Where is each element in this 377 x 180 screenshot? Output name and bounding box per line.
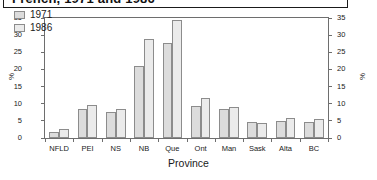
x-axis-title: Province: [0, 157, 377, 169]
y-axis-tick: [328, 120, 332, 121]
x-axis-tick: [102, 138, 103, 142]
legend-item-1986: 1986: [14, 21, 52, 34]
screenshot-root: French, 1971 and 1986 005510101515202025…: [0, 0, 377, 180]
x-axis-label-man: Man: [215, 144, 243, 153]
y-axis-tick-label: 30: [337, 31, 361, 39]
y-axis-tick: [328, 18, 332, 19]
x-axis-tick: [300, 138, 301, 142]
bar-nb-1971: [134, 66, 144, 138]
plot-inner: 0055101015152020252530303535NFLDPEINSNBQ…: [45, 18, 328, 138]
y-axis-tick-label: 15: [0, 83, 22, 91]
bar-que-1971: [163, 43, 173, 138]
y-axis-tick: [41, 69, 45, 70]
y-axis-tick-label: 5: [337, 117, 361, 125]
y-axis-label-right: %: [358, 70, 367, 84]
bar-ns-1986: [116, 109, 126, 138]
legend-item-label: 1986: [30, 23, 52, 33]
legend-item-label: 1971: [30, 10, 52, 20]
bar-alta-1986: [286, 118, 296, 138]
x-axis-tick: [215, 138, 216, 142]
y-axis-tick: [328, 103, 332, 104]
y-axis-tick-label: 10: [0, 100, 22, 108]
y-axis-tick-label: 5: [0, 117, 22, 125]
legend: 19711986: [14, 8, 52, 34]
plot-area: 0055101015152020252530303535NFLDPEINSNBQ…: [44, 17, 329, 139]
x-axis-label-alta: Alta: [271, 144, 299, 153]
bar-bc-1971: [304, 122, 314, 138]
bar-pei-1971: [78, 109, 88, 138]
x-axis-label-sask: Sask: [243, 144, 271, 153]
bar-man-1986: [229, 107, 239, 138]
y-axis-tick: [328, 86, 332, 87]
y-axis-tick-label: 25: [337, 48, 361, 56]
y-axis-tick: [41, 86, 45, 87]
legend-item-1971: 1971: [14, 8, 52, 21]
y-axis-tick-label: 0: [0, 134, 22, 142]
x-axis-tick: [130, 138, 131, 142]
bar-man-1971: [219, 109, 229, 138]
x-axis-label-nb: NB: [130, 144, 158, 153]
y-axis-tick-label: 25: [0, 48, 22, 56]
y-axis-label-left: %: [7, 70, 16, 84]
bar-ont-1986: [201, 98, 211, 138]
legend-swatch-icon: [14, 24, 25, 32]
y-axis-tick: [41, 120, 45, 121]
y-axis-tick-label: 35: [337, 14, 361, 22]
y-axis-tick-label: 0: [337, 134, 361, 142]
x-axis-label-ns: NS: [102, 144, 130, 153]
bar-que-1986: [172, 20, 182, 138]
chart-title-bar: French, 1971 and 1986: [3, 0, 348, 8]
page-title: French, 1971 and 1986: [12, 0, 155, 6]
bar-bc-1986: [314, 119, 324, 138]
x-axis-tick: [271, 138, 272, 142]
y-axis-tick: [41, 103, 45, 104]
x-axis-label-que: Que: [158, 144, 186, 153]
x-axis-label-ont: Ont: [187, 144, 215, 153]
bar-sask-1986: [257, 123, 267, 138]
x-axis-tick: [328, 138, 329, 142]
bar-nfld-1971: [49, 132, 59, 138]
x-axis-tick: [243, 138, 244, 142]
x-axis-tick: [158, 138, 159, 142]
x-axis-tick: [45, 138, 46, 142]
legend-swatch-icon: [14, 11, 25, 19]
x-axis-label-pei: PEI: [73, 144, 101, 153]
y-axis-tick: [328, 35, 332, 36]
bar-nb-1986: [144, 39, 154, 138]
y-axis-tick-label: 10: [337, 100, 361, 108]
y-axis-tick-label: 15: [337, 83, 361, 91]
bar-nfld-1986: [59, 129, 69, 138]
bar-pei-1986: [87, 105, 97, 138]
x-axis-label-nfld: NFLD: [45, 144, 73, 153]
bar-ns-1971: [106, 112, 116, 138]
y-axis-tick: [41, 35, 45, 36]
y-axis-tick: [328, 52, 332, 53]
x-axis-tick: [73, 138, 74, 142]
bar-ont-1971: [191, 106, 201, 138]
y-axis-tick: [41, 52, 45, 53]
x-axis-label-bc: BC: [300, 144, 328, 153]
bar-sask-1971: [247, 122, 257, 138]
x-axis-tick: [187, 138, 188, 142]
bar-alta-1971: [276, 121, 286, 138]
y-axis-tick: [328, 69, 332, 70]
